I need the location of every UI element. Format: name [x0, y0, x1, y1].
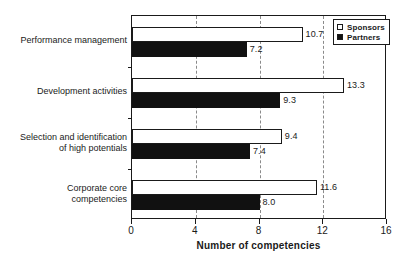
x-tick-12 [322, 219, 323, 224]
bar-row: 9.3 [132, 93, 385, 108]
x-tick-8 [259, 219, 260, 224]
x-tick-label-0: 0 [128, 225, 134, 236]
bar-row: 13.3 [132, 78, 385, 93]
bar-row: 9.4 [132, 129, 385, 144]
chart-legend: Sponsors Partners [333, 19, 390, 45]
category-label: Corporate core competencies [0, 183, 131, 205]
bar-value-label: 11.6 [317, 182, 337, 192]
bar-sponsors [132, 129, 282, 144]
bar-row: 11.6 [132, 180, 385, 195]
legend-label-sponsors: Sponsors [347, 23, 385, 32]
hollow-square-icon [337, 24, 343, 30]
x-axis-title: Number of competencies [131, 240, 386, 251]
bar-group: 13.39.3 [132, 67, 385, 118]
legend-item-sponsors: Sponsors [337, 22, 385, 32]
x-tick-label-8: 8 [256, 225, 262, 236]
bar-value-label: 8.0 [260, 197, 276, 207]
bar-value-label: 13.3 [344, 80, 365, 90]
bar-sponsors [132, 180, 317, 195]
bar-value-label: 7.4 [250, 146, 266, 156]
x-tick-0 [131, 219, 132, 224]
x-tick-label-4: 4 [192, 225, 198, 236]
bar-value-label: 10.7 [303, 29, 324, 39]
legend-item-partners: Partners [337, 32, 385, 42]
bar-partners [132, 144, 250, 159]
bar-sponsors [132, 78, 344, 93]
x-tick-16 [386, 219, 387, 224]
plot-area: 10.77.213.39.39.47.411.68.0 [131, 15, 386, 219]
bar-value-label: 7.2 [247, 44, 263, 54]
bar-row: 8.0 [132, 195, 385, 210]
bar-partners [132, 93, 280, 108]
filled-square-icon [337, 34, 343, 40]
legend-label-partners: Partners [347, 33, 380, 42]
horizontal-bar-chart: 10.77.213.39.39.47.411.68.0 Number of co… [0, 0, 406, 262]
x-tick-label-16: 16 [380, 225, 391, 236]
bar-value-label: 9.4 [282, 131, 298, 141]
bar-partners [132, 42, 247, 57]
bar-row: 7.4 [132, 144, 385, 159]
bar-sponsors [132, 27, 303, 42]
category-label: Performance management [0, 35, 131, 46]
x-tick-label-12: 12 [317, 225, 328, 236]
bar-group: 11.68.0 [132, 169, 385, 220]
bar-value-label: 9.3 [280, 95, 296, 105]
category-label: Development activities [0, 86, 131, 97]
x-tick-4 [195, 219, 196, 224]
bar-group: 9.47.4 [132, 118, 385, 169]
bar-partners [132, 195, 260, 210]
category-label: Selection and identification of high pot… [0, 132, 131, 154]
